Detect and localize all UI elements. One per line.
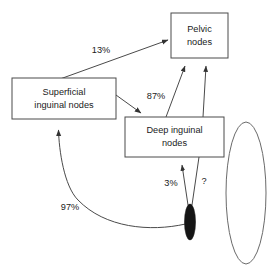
- edge-line-superficial-to-pelvic: [60, 40, 168, 79]
- node-pelvic-nodes-label-line1: Pelvic: [187, 24, 212, 34]
- edge-superficial-to-pelvic: [60, 40, 168, 79]
- node-pelvic-nodes[interactable]: Pelvic nodes: [171, 13, 228, 58]
- lymphatic-drainage-diagram: Pelvic nodes Superficial inguinal nodes …: [0, 0, 269, 275]
- node-superficial-inguinal-nodes-label-line2: inguinal nodes: [34, 100, 94, 110]
- node-deep-inguinal-nodes[interactable]: Deep inguinal nodes: [125, 117, 224, 157]
- edge-tumor-to-deep: [182, 165, 188, 205]
- node-deep-inguinal-nodes-label-line1: Deep inguinal: [146, 125, 202, 135]
- edge-label-3-percent: 3%: [164, 178, 177, 188]
- edge-line-superficial-to-deep: [116, 95, 141, 113]
- diagram-canvas: Pelvic nodes Superficial inguinal nodes …: [0, 0, 269, 275]
- edge-label-97-percent: 97%: [61, 202, 79, 212]
- edge-line-tumor-to-pelvic-lower: [192, 157, 199, 205]
- node-pelvic-nodes-rect[interactable]: [171, 13, 228, 58]
- edge-deep-to-pelvic-a: [166, 66, 185, 117]
- edge-label-unknown-percent: ?: [201, 176, 206, 186]
- node-superficial-inguinal-nodes[interactable]: Superficial inguinal nodes: [12, 78, 116, 119]
- node-pelvic-nodes-label-line2: nodes: [187, 37, 212, 47]
- primary-tumor-marker: [185, 204, 196, 240]
- node-deep-inguinal-nodes-rect[interactable]: [125, 117, 224, 157]
- edge-superficial-to-deep: [116, 95, 141, 113]
- edge-label-87-percent: 87%: [147, 91, 165, 101]
- edge-label-13-percent: 13%: [92, 45, 110, 55]
- node-superficial-inguinal-nodes-rect[interactable]: [12, 78, 116, 119]
- node-deep-inguinal-nodes-label-line2: nodes: [162, 138, 187, 148]
- edge-line-tumor-to-deep: [182, 165, 188, 205]
- node-superficial-inguinal-nodes-label-line1: Superficial: [43, 87, 86, 97]
- edge-line-tumor-to-pelvic-upper: [203, 66, 206, 117]
- organ-outline-ellipse: [226, 122, 266, 264]
- edge-line-deep-to-pelvic-a: [166, 66, 185, 117]
